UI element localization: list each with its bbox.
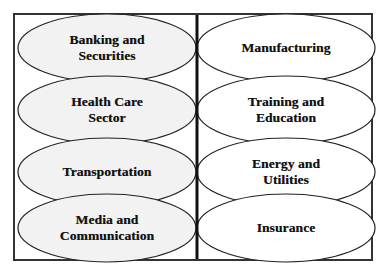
ellipse-manufacturing[interactable] <box>197 14 375 82</box>
ellipse-insurance[interactable] <box>197 194 375 262</box>
diagram-root: Banking and Securities Health Care Secto… <box>0 0 390 276</box>
ellipse-media-and-communication[interactable] <box>18 194 196 262</box>
diagram-canvas <box>0 0 390 276</box>
ellipse-training-and-education[interactable] <box>197 76 375 144</box>
ellipse-banking-and-securities[interactable] <box>18 14 196 82</box>
ellipse-health-care-sector[interactable] <box>18 76 196 144</box>
